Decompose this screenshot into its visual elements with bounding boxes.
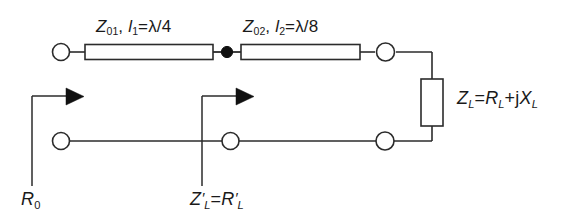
label-line1-z-sub: 01 <box>107 25 119 37</box>
label-line2-impedance-length: Z02, l2=λ/8 <box>243 18 318 35</box>
label-load-z-sub: L <box>468 98 474 110</box>
label-line1-value: λ/4 <box>148 17 171 36</box>
label-source-resistance: R0 <box>21 190 40 208</box>
label-source-r-sub: 0 <box>34 199 40 211</box>
label-line2-l-sub: 2 <box>279 25 285 37</box>
label-line1-eq: = <box>138 17 148 36</box>
label-line2-value: λ/8 <box>295 17 318 36</box>
label-intermediate-impedance: Z′L=R′L <box>190 190 244 208</box>
label-line1-z: Z <box>96 17 107 36</box>
label-load-r: R <box>485 88 498 108</box>
terminal-node-top-right <box>377 43 395 61</box>
junction-dot-icon <box>221 46 232 57</box>
circuit-diagram: Z01, l1=λ/4 Z02, l2=λ/8 ZL=RL+jXL R0 Z′L… <box>0 0 567 221</box>
arrowhead-icon-source <box>66 88 84 105</box>
label-inter-z: Z <box>190 189 201 209</box>
transmission-line-1 <box>85 45 213 60</box>
terminal-node-bottom-right <box>376 132 394 150</box>
label-load-impedance: ZL=RL+jXL <box>457 89 538 107</box>
label-load-z: Z <box>457 88 468 108</box>
label-load-x-sub: L <box>532 98 538 110</box>
label-line1-l-sub: 1 <box>132 25 138 37</box>
label-line2-eq: = <box>285 17 295 36</box>
label-load-x: X <box>519 88 531 108</box>
label-line2-z: Z <box>243 17 254 36</box>
load-impedance-box <box>421 79 443 126</box>
transmission-line-2 <box>241 45 360 60</box>
label-line1-impedance-length: Z01, l1=λ/4 <box>96 18 171 35</box>
label-line1-sep: , <box>118 17 128 36</box>
terminal-node-bottom-middle <box>222 133 239 150</box>
label-line2-z-sub: 02 <box>254 25 266 37</box>
label-load-eq: = <box>474 88 485 108</box>
label-source-r: R <box>21 189 34 209</box>
label-load-plus-j: +j <box>505 88 520 108</box>
label-line2-sep: , <box>265 17 275 36</box>
terminal-node-top-left <box>53 44 70 61</box>
label-load-r-sub: L <box>498 98 504 110</box>
label-inter-eq: = <box>211 189 222 209</box>
label-inter-z-sub: L <box>204 199 210 211</box>
label-inter-r: R <box>221 189 234 209</box>
terminal-node-bottom-left <box>53 133 70 150</box>
arrowhead-icon-intermediate <box>236 88 254 105</box>
label-inter-r-sub: L <box>238 199 244 211</box>
